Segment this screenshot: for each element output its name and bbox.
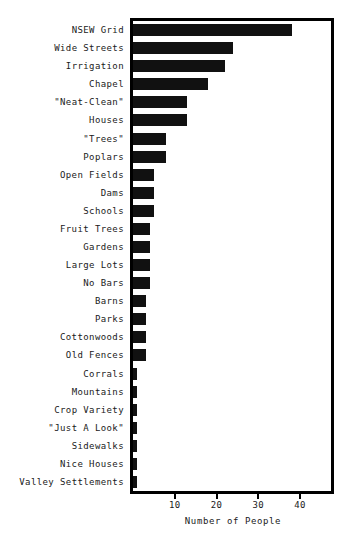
bar-row — [133, 241, 331, 253]
bar — [133, 42, 233, 54]
bar-row — [133, 42, 331, 54]
bar-row — [133, 476, 331, 488]
bar — [133, 96, 187, 108]
bar — [133, 368, 137, 380]
x-axis-tick-label: 10 — [169, 500, 181, 511]
y-axis-tick-label: No Bars — [83, 278, 124, 288]
x-axis-title: Number of People — [0, 516, 356, 526]
y-axis-labels: NSEW GridWide StreetsIrrigationChapel"Ne… — [0, 18, 124, 494]
y-axis-tick-label: Nice Houses — [60, 459, 124, 469]
bar — [133, 386, 137, 398]
x-axis-tick-mark — [299, 494, 301, 499]
bar — [133, 60, 225, 72]
bar-row — [133, 205, 331, 217]
bar — [133, 223, 150, 235]
bar — [133, 476, 137, 488]
bar-row — [133, 223, 331, 235]
bar-row — [133, 96, 331, 108]
bar-row — [133, 187, 331, 199]
bar-row — [133, 313, 331, 325]
bar — [133, 133, 166, 145]
bar-row — [133, 440, 331, 452]
bar — [133, 349, 146, 361]
bar-row — [133, 133, 331, 145]
y-axis-tick-label: Crop Variety — [54, 405, 124, 415]
bar — [133, 78, 208, 90]
y-axis-tick-label: Chapel — [89, 79, 124, 89]
bar — [133, 440, 137, 452]
y-axis-tick-label: Barns — [95, 296, 124, 306]
bar — [133, 169, 154, 181]
bar-chart: NSEW GridWide StreetsIrrigationChapel"Ne… — [0, 0, 356, 557]
x-axis-tick-mark — [257, 494, 259, 499]
x-axis-tick-label: 30 — [252, 500, 264, 511]
y-axis-tick-label: Mountains — [72, 387, 124, 397]
bar — [133, 114, 187, 126]
bar-row — [133, 349, 331, 361]
bar — [133, 331, 146, 343]
bar — [133, 295, 146, 307]
bar — [133, 187, 154, 199]
x-axis-tick-label: 20 — [211, 500, 223, 511]
bar — [133, 241, 150, 253]
y-axis-tick-label: Parks — [95, 314, 124, 324]
y-axis-tick-label: Corrals — [83, 369, 124, 379]
bar-row — [133, 259, 331, 271]
x-axis-tick-mark — [174, 494, 176, 499]
bar-row — [133, 458, 331, 470]
x-axis-tick-mark — [216, 494, 218, 499]
x-axis-title-text: Number of People — [185, 516, 281, 526]
y-axis-tick-label: Fruit Trees — [60, 224, 124, 234]
bar-row — [133, 60, 331, 72]
bar — [133, 259, 150, 271]
bar-row — [133, 331, 331, 343]
y-axis-tick-label: Wide Streets — [54, 43, 124, 53]
y-axis-tick-label: Gardens — [83, 242, 124, 252]
bar-row — [133, 24, 331, 36]
bar-row — [133, 169, 331, 181]
y-axis-tick-label: "Just A Look" — [48, 423, 124, 433]
y-axis-tick-label: "Neat-Clean" — [54, 97, 124, 107]
y-axis-tick-label: Cottonwoods — [60, 332, 124, 342]
bar — [133, 277, 150, 289]
bar — [133, 24, 292, 36]
bar-row — [133, 295, 331, 307]
y-axis-tick-label: Valley Settlements — [19, 477, 124, 487]
bar — [133, 205, 154, 217]
bar — [133, 151, 166, 163]
bar-row — [133, 114, 331, 126]
y-axis-tick-label: Old Fences — [66, 350, 124, 360]
bar-row — [133, 386, 331, 398]
bar-row — [133, 404, 331, 416]
y-axis-tick-label: NSEW Grid — [72, 25, 124, 35]
y-axis-tick-label: Dams — [101, 188, 124, 198]
bar — [133, 458, 137, 470]
y-axis-tick-label: Sidewalks — [72, 441, 124, 451]
y-axis-tick-label: Large Lots — [66, 260, 124, 270]
bars-area — [133, 21, 331, 491]
y-axis-tick-label: "Trees" — [83, 134, 124, 144]
bar — [133, 422, 137, 434]
bar-row — [133, 422, 331, 434]
bar-row — [133, 78, 331, 90]
x-axis-tick-label: 40 — [294, 500, 306, 511]
y-axis-tick-label: Open Fields — [60, 170, 124, 180]
bar — [133, 313, 146, 325]
y-axis-tick-label: Schools — [83, 206, 124, 216]
bar — [133, 404, 137, 416]
bar-row — [133, 368, 331, 380]
y-axis-tick-label: Poplars — [83, 152, 124, 162]
plot-frame — [130, 18, 334, 494]
y-axis-tick-label: Irrigation — [66, 61, 124, 71]
bar-row — [133, 151, 331, 163]
bar-row — [133, 277, 331, 289]
y-axis-tick-label: Houses — [89, 115, 124, 125]
